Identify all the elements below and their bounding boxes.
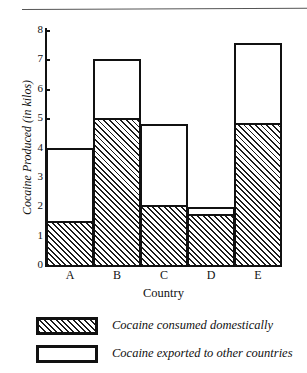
legend-swatch-plain xyxy=(36,345,98,363)
x-tick-label-A: A xyxy=(46,268,94,283)
y-tick-8 xyxy=(45,30,50,32)
bar-C-domestic xyxy=(140,205,188,267)
chart-legend: Cocaine consumed domestically Cocaine ex… xyxy=(36,315,298,371)
y-tick-7 xyxy=(45,59,50,61)
bar-B-domestic xyxy=(93,118,141,267)
x-tick-label-E: E xyxy=(234,268,282,283)
x-axis-title: Country xyxy=(45,286,282,301)
x-tick-label-D: D xyxy=(187,268,235,283)
legend-label-domestic: Cocaine consumed domestically xyxy=(112,318,273,333)
x-tick-label-C: C xyxy=(140,268,188,283)
y-tick-6 xyxy=(45,89,50,91)
bar-A-domestic xyxy=(46,221,94,267)
x-tick-label-B: B xyxy=(93,268,141,283)
y-tick-5 xyxy=(45,118,50,120)
bar-E-domestic xyxy=(234,123,282,267)
legend-item-domestic: Cocaine consumed domestically xyxy=(36,315,298,339)
legend-item-exported: Cocaine exported to other countries xyxy=(36,343,298,367)
bar-chart-figure: 8 7 6 5 4 3 2 1 0 Cocaine Produced (in k… xyxy=(0,0,307,373)
legend-label-exported: Cocaine exported to other countries xyxy=(112,346,293,361)
legend-swatch-hatched xyxy=(36,317,98,335)
bar-D-domestic xyxy=(187,214,235,267)
y-axis-title: Cocaine Produced (in kilos) xyxy=(20,33,35,263)
